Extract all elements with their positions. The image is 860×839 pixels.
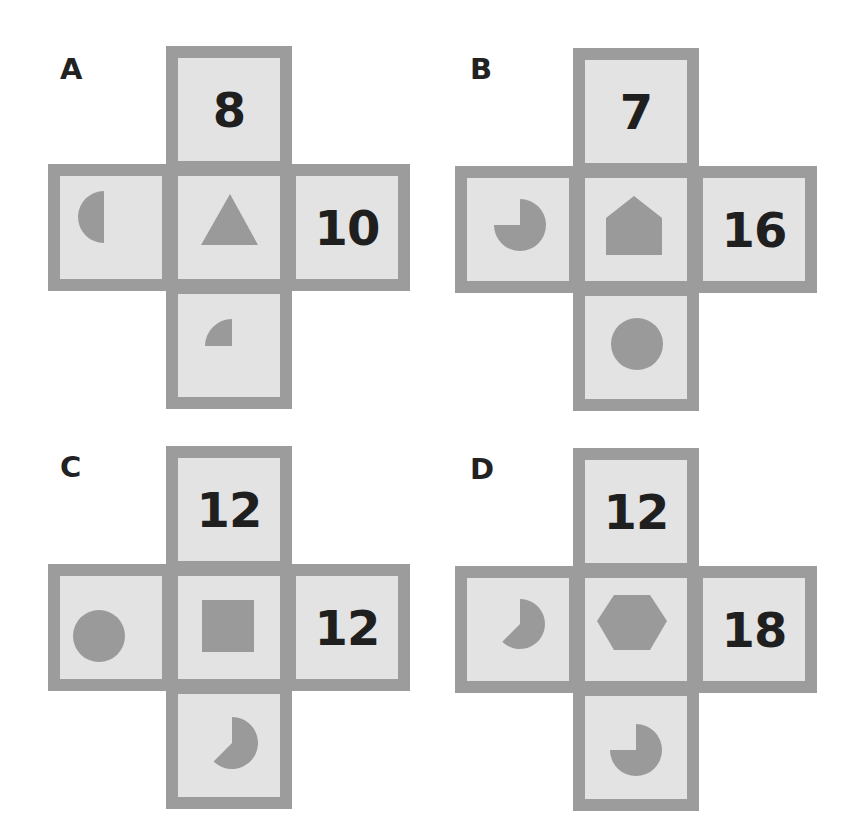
pentagon-house-icon xyxy=(585,178,687,281)
tile-top: 12 xyxy=(166,446,292,573)
tile-number: 12 xyxy=(585,460,687,563)
tile-number: 12 xyxy=(296,576,398,679)
tile-top: 7 xyxy=(573,48,699,175)
option-a-cube-net[interactable]: 8 10 xyxy=(48,46,410,408)
option-b-cube-net[interactable]: 7 16 xyxy=(455,48,817,410)
option-c-cube-net[interactable]: 12 12 xyxy=(48,446,410,808)
three-quarter-pie-icon xyxy=(585,696,687,799)
five-eighths-pie-icon xyxy=(178,694,280,797)
square-icon xyxy=(178,576,280,679)
tile-center xyxy=(166,564,292,691)
tile-left xyxy=(48,564,174,691)
tile-number: 10 xyxy=(296,176,398,279)
tile-left xyxy=(48,164,174,291)
tile-right: 18 xyxy=(691,566,817,693)
quarter-circle-icon xyxy=(178,294,280,397)
tile-center xyxy=(573,566,699,693)
tile-right: 10 xyxy=(284,164,410,291)
semicircle-left-icon xyxy=(60,176,162,279)
tile-center xyxy=(166,164,292,291)
tile-number: 7 xyxy=(585,60,687,163)
tile-bottom xyxy=(573,684,699,811)
circle-icon xyxy=(60,576,162,679)
triangle-icon xyxy=(178,176,280,279)
tile-number: 16 xyxy=(703,178,805,281)
option-d-cube-net[interactable]: 12 18 xyxy=(455,448,817,810)
hexagon-icon xyxy=(585,578,687,681)
tile-bottom xyxy=(573,284,699,411)
tile-right: 12 xyxy=(284,564,410,691)
tile-right: 16 xyxy=(691,166,817,293)
tile-number: 8 xyxy=(178,58,280,161)
circle-icon xyxy=(585,296,687,399)
tile-left xyxy=(455,166,581,293)
three-quarter-pie-icon xyxy=(467,178,569,281)
tile-left xyxy=(455,566,581,693)
tile-center xyxy=(573,166,699,293)
tile-top: 8 xyxy=(166,46,292,173)
tile-number: 12 xyxy=(178,458,280,561)
tile-bottom xyxy=(166,682,292,809)
tile-number: 18 xyxy=(703,578,805,681)
five-eighths-pie-icon xyxy=(467,578,569,681)
tile-bottom xyxy=(166,282,292,409)
tile-top: 12 xyxy=(573,448,699,575)
